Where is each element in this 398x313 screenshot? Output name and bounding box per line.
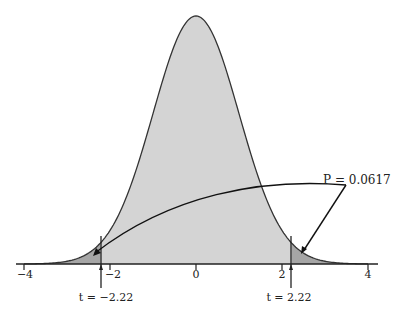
tick-label-2: 2 [279, 268, 286, 281]
density-body-area [101, 16, 292, 264]
p-arrow-right [304, 185, 346, 250]
t-left-label: t = −2.22 [79, 291, 133, 304]
p-value-label: P = 0.0617 [323, 173, 391, 187]
tick-label-4: 4 [365, 268, 372, 281]
t-distribution-plot [0, 0, 398, 313]
tick-label-neg2: −2 [105, 268, 121, 281]
right-critical-arrowhead [289, 264, 293, 270]
left-critical-arrowhead [99, 264, 103, 270]
tick-label-0: 0 [193, 268, 200, 281]
t-right-label: t = 2.22 [266, 291, 311, 304]
tick-label-neg4: −4 [17, 268, 33, 281]
